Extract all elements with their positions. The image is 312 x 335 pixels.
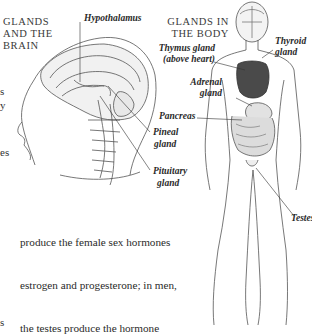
left-fragment-2: y bbox=[0, 99, 6, 111]
thymus-label-line-1: Thymus gland bbox=[151, 43, 215, 54]
pituitary-gland-label: Pituitary gland bbox=[153, 165, 187, 189]
pancreas-label: Pancreas bbox=[159, 111, 195, 122]
thyroid-gland-label: Thyroid gland bbox=[275, 36, 306, 58]
left-fragment-4: s bbox=[0, 316, 4, 328]
thymus-gland-label: Thymus gland (above heart) bbox=[151, 43, 215, 65]
paragraph-line: estrogen and progesterone; in men, bbox=[20, 278, 177, 292]
brain-heading-line-1: GLANDS bbox=[3, 16, 53, 28]
thymus-label-line-2: (above heart) bbox=[151, 54, 215, 65]
pituitary-label-line-1: Pituitary bbox=[153, 165, 187, 177]
left-fragment-3: es bbox=[0, 146, 9, 158]
pituitary-label-line-2: gland bbox=[153, 177, 187, 189]
left-fragment-1: s bbox=[0, 85, 4, 97]
thyroid-label-line-2: gland bbox=[275, 47, 306, 58]
testes-label: Testes bbox=[291, 213, 312, 224]
paragraph-line: the testes produce the hormone bbox=[20, 321, 177, 335]
body-section-heading: GLANDS IN THE BODY bbox=[163, 16, 229, 40]
thyroid-label-line-1: Thyroid bbox=[275, 36, 306, 47]
brain-heading-line-3: BRAIN bbox=[3, 40, 53, 52]
head-profile-drawing bbox=[18, 37, 156, 185]
brain-heading-line-2: AND THE bbox=[3, 28, 53, 40]
pineal-gland-label: Pineal gland bbox=[153, 126, 178, 150]
adrenal-label-line-1: Adrenal bbox=[180, 77, 222, 88]
hypothalamus-label: Hypothalamus bbox=[84, 13, 142, 24]
pineal-label-line-2: gland bbox=[153, 138, 178, 150]
adrenal-label-line-2: gland bbox=[180, 88, 222, 99]
adrenal-gland-label: Adrenal gland bbox=[180, 77, 222, 99]
body-heading-line-1: GLANDS IN bbox=[163, 16, 229, 28]
body-heading-line-2: THE BODY bbox=[163, 28, 229, 40]
paragraph-line: produce the female sex hormones bbox=[20, 235, 177, 249]
body-paragraph: produce the female sex hormones estrogen… bbox=[20, 207, 177, 335]
brain-section-heading: GLANDS AND THE BRAIN bbox=[3, 16, 53, 52]
pineal-label-line-1: Pineal bbox=[153, 126, 178, 138]
